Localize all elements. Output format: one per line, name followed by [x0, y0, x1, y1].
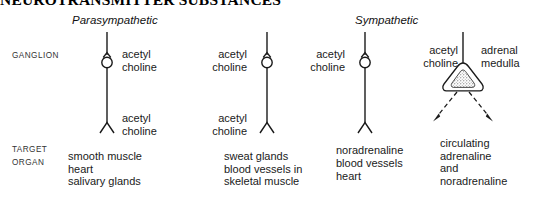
row-label-ganglion: GANGLION: [12, 51, 59, 60]
neuron-parasympathetic-main: [92, 32, 122, 140]
neuron-sympathetic-cholinergic: [252, 32, 282, 140]
target-organ-label-1: smooth muscle heart salivary glands: [68, 150, 142, 188]
transmitter-label-preganglionic-4: acetyl choline: [396, 44, 458, 69]
row-label-organ: ORGAN: [12, 158, 44, 167]
section-heading-sympathetic: Sympathetic: [355, 14, 418, 26]
target-organ-label-2: sweat glands blood vessels in skeletal m…: [224, 150, 302, 188]
transmitter-label-preganglionic-1: acetyl choline: [122, 48, 157, 73]
neuron-diagram-icon: [252, 32, 282, 140]
target-organ-label-3: blood vessels heart: [336, 157, 403, 182]
row-label-target: TARGET: [12, 145, 47, 154]
figure-title: NEUROTRANSMITTER SUBSTANCES: [0, 0, 300, 9]
transmitter-label-preganglionic-3: acetyl choline: [283, 48, 345, 73]
neurotransmitter-substances-figure: NEUROTRANSMITTER SUBSTANCES Parasympathe…: [0, 0, 541, 200]
transmitter-label-postganglionic-3: noradrenaline: [336, 144, 403, 157]
organ-label-adrenal-medulla: adrenal medulla: [481, 44, 520, 69]
adrenal-output-label: circulating adrenaline and noradrenaline: [440, 137, 507, 187]
transmitter-label-postganglionic-1: acetyl choline: [122, 112, 157, 137]
transmitter-label-preganglionic-2: acetyl choline: [185, 48, 247, 73]
neuron-diagram-icon: [92, 32, 122, 140]
neuron-sympathetic-adrenergic: [350, 32, 380, 140]
neuron-diagram-icon: [350, 32, 380, 140]
section-heading-parasympathetic: Parasympathetic: [72, 14, 158, 26]
transmitter-label-postganglionic-2: acetyl choline: [185, 112, 247, 137]
